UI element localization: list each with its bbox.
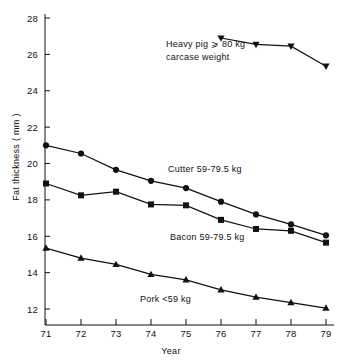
- heavy-pig-label: Heavy pig ⩾ 80 kg: [166, 39, 245, 49]
- heavy-pig-label-2: carcase weight: [166, 52, 230, 62]
- data-point-triangle-up: [42, 244, 49, 250]
- x-tick-label: 76: [216, 328, 227, 339]
- x-tick-label: 78: [286, 328, 297, 339]
- y-tick-label: 12: [27, 304, 38, 315]
- data-point-circle: [288, 221, 294, 227]
- data-point-square: [113, 189, 119, 195]
- y-tick-label: 18: [27, 194, 38, 205]
- x-tick-label: 72: [76, 328, 87, 339]
- data-point-circle: [78, 150, 84, 156]
- pork-label: Pork <59 kg: [140, 294, 191, 304]
- y-tick-label: 26: [27, 49, 38, 60]
- series-annotations: Heavy pig ⩾ 80 kgcarcase weightCutter 59…: [140, 39, 245, 304]
- data-point-circle: [148, 178, 154, 184]
- data-point-square: [288, 228, 294, 234]
- y-tick-label: 20: [27, 158, 38, 169]
- x-axis-ticks: 717273747576777879: [41, 319, 332, 339]
- data-point-circle: [183, 185, 189, 191]
- chart-plot-area: 121416182022242628717273747576777879Heav…: [0, 0, 342, 364]
- data-point-square: [78, 192, 84, 198]
- fat-thickness-line-chart: 121416182022242628717273747576777879Heav…: [0, 0, 342, 364]
- x-tick-label: 75: [181, 328, 192, 339]
- data-point-triangle-down: [287, 44, 294, 50]
- x-tick-label: 74: [146, 328, 157, 339]
- data-point-circle: [253, 211, 259, 217]
- y-axis-title: Fat thickness ( mm ): [11, 107, 21, 207]
- data-point-circle: [323, 232, 329, 238]
- data-point-circle: [218, 199, 224, 205]
- data-point-square: [253, 226, 259, 232]
- x-tick-label: 71: [41, 328, 52, 339]
- data-point-circle: [43, 142, 49, 148]
- y-tick-label: 16: [27, 231, 38, 242]
- data-point-square: [148, 201, 154, 207]
- data-point-square: [218, 217, 224, 223]
- data-point-triangle-down: [322, 64, 329, 70]
- x-tick-label: 77: [251, 328, 262, 339]
- y-axis-ticks: 121416182022242628: [27, 13, 50, 315]
- x-tick-label: 73: [111, 328, 122, 339]
- x-tick-label: 79: [321, 328, 332, 339]
- data-point-circle: [113, 167, 119, 173]
- y-tick-label: 14: [27, 267, 38, 278]
- series-circle: [43, 142, 329, 238]
- cutter-label: Cutter 59-79.5 kg: [168, 164, 242, 174]
- bacon-label: Bacon 59-79.5 kg: [170, 232, 245, 242]
- y-tick-label: 28: [27, 13, 38, 24]
- data-point-square: [323, 240, 329, 246]
- y-tick-label: 22: [27, 122, 38, 133]
- x-axis-title: Year: [0, 346, 342, 356]
- data-point-square: [43, 181, 49, 187]
- data-point-square: [183, 202, 189, 208]
- y-tick-label: 24: [27, 85, 38, 96]
